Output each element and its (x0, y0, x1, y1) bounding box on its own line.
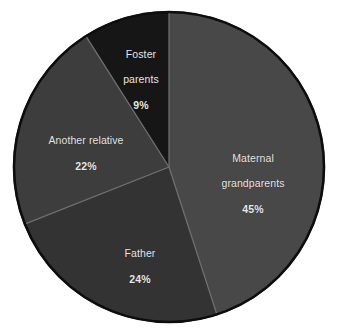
pie-chart: Maternal grandparents 45% Father 24% Ano… (0, 0, 344, 329)
pie-chart-canvas (0, 0, 344, 329)
